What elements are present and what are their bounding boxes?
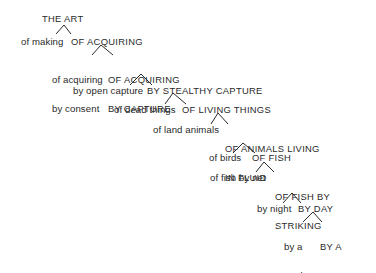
division-tree-diagram: THE ART of making OF ACQUIRING of acquir… (0, 0, 376, 273)
node-of-land-animals: of land animals (153, 125, 219, 135)
node-line: OF FISH BY (275, 192, 330, 202)
node-by-stealthy-capture: BY STEALTHY CAPTURE (147, 86, 263, 96)
node-of-fish: OF FISH (252, 153, 291, 163)
node-by-a-stroke-from-above: by a stroke from above (284, 223, 311, 273)
node-line: OF ACQUIRING (108, 75, 180, 85)
edge-root-left (56, 25, 64, 34)
node-of-making: of making (21, 37, 64, 47)
node-of-fish-by-net: of fish by net (210, 173, 266, 183)
edge-root-right (64, 25, 71, 34)
node-by-night: by night (257, 204, 291, 214)
node-by-a-stroke-from-below: BY A STROKE FROM BELOW (320, 223, 360, 273)
node-line: BY A (320, 242, 360, 252)
node-of-acquiring: OF ACQUIRING (71, 37, 143, 47)
node-by-open-capture: by open capture (73, 86, 143, 96)
node-of-living-things: OF LIVING THINGS (182, 105, 271, 115)
node-line: by consent (52, 104, 103, 114)
node-line: of acquiring (52, 75, 103, 85)
node-root: THE ART (42, 14, 84, 24)
node-by-day: BY DAY (298, 204, 333, 214)
node-of-dead-things: of dead things (114, 105, 176, 115)
node-line: by a (284, 242, 311, 252)
node-of-birds: of birds (209, 153, 241, 163)
